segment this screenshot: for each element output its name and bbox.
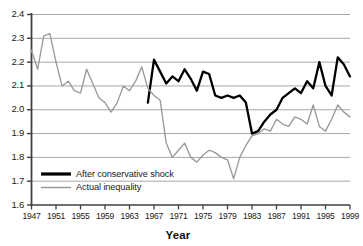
x-tick-label: 1991: [288, 211, 314, 221]
x-tick-label: 1999: [337, 211, 363, 221]
x-tick-label: 1967: [141, 211, 167, 221]
y-tick-label: 1.7: [2, 176, 24, 186]
x-tick-label: 1975: [190, 211, 216, 221]
x-tick-label: 1987: [264, 211, 290, 221]
x-tick-label: 1963: [117, 211, 143, 221]
legend-label: Actual inequality: [76, 182, 141, 192]
y-tick-label: 2.4: [2, 9, 24, 19]
y-tick-label: 2.2: [2, 57, 24, 67]
y-tick-label: 2.0: [2, 104, 24, 114]
y-tick-label: 1.9: [2, 128, 24, 138]
x-tick-label: 1983: [239, 211, 265, 221]
series-line-after-conservative-shock: [148, 57, 350, 133]
x-tick-label: 1947: [19, 211, 45, 221]
x-tick-label: 1955: [68, 211, 94, 221]
x-tick-label: 1951: [43, 211, 69, 221]
y-tick-label: 1.6: [2, 200, 24, 210]
y-tick-label: 1.8: [2, 152, 24, 162]
x-tick-label: 1979: [215, 211, 241, 221]
y-tick-label: 2.3: [2, 33, 24, 43]
x-tick-label: 1971: [166, 211, 192, 221]
x-axis-title: Year: [0, 229, 356, 241]
x-tick-label: 1995: [313, 211, 339, 221]
y-tick-label: 2.1: [2, 80, 24, 90]
legend-label: After conservative shock: [76, 169, 174, 179]
x-tick-label: 1959: [92, 211, 118, 221]
